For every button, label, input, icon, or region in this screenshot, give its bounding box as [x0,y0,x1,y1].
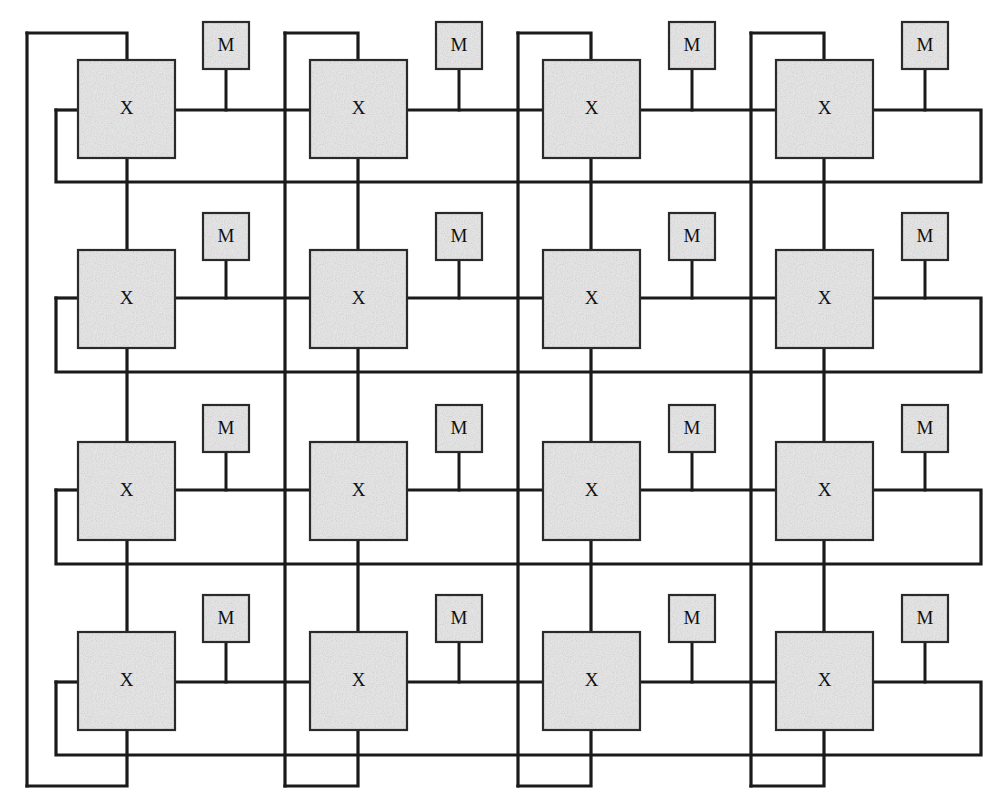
memory-node-label: M [218,417,235,438]
memory-node-label: M [917,417,934,438]
col1-top-entry [27,33,127,60]
memory-node-3-2[interactable]: M [436,405,482,452]
switch-node-2-3[interactable]: X [543,250,640,348]
switch-node-label: X [818,287,832,308]
memory-node-label: M [684,417,701,438]
memory-node-label: M [451,225,468,246]
switch-node-label: X [120,287,134,308]
memory-node-2-3[interactable]: M [669,213,715,260]
memory-node-label: M [684,225,701,246]
memory-node-label: M [917,225,934,246]
switch-node-label: X [585,479,599,500]
memory-node-3-1[interactable]: M [203,405,249,452]
col2-bottom-wrap [285,730,358,786]
switch-node-label: X [818,479,832,500]
switch-node-4-3[interactable]: X [543,632,640,730]
memory-node-label: M [451,417,468,438]
memory-node-label: M [218,607,235,628]
col3-top-entry [518,33,591,60]
switch-node-label: X [352,287,366,308]
memory-node-2-1[interactable]: M [203,213,249,260]
memory-node-1-3[interactable]: M [669,22,715,69]
memory-node-label: M [218,34,235,55]
col4-bottom-wrap [751,730,824,786]
switch-node-label: X [585,669,599,690]
memory-node-label: M [917,34,934,55]
memory-node-label: M [917,607,934,628]
torus-interconnect-diagram: XXXXXXXXXXXXXXXX MMMMMMMMMMMMMMMM [0,0,999,812]
switch-node-label: X [352,479,366,500]
col4-top-entry [751,33,824,60]
memory-node-4-2[interactable]: M [436,595,482,642]
switch-node-2-2[interactable]: X [310,250,407,348]
switch-node-label: X [818,97,832,118]
memory-node-3-3[interactable]: M [669,405,715,452]
switch-node-label: X [585,97,599,118]
diagram-canvas: XXXXXXXXXXXXXXXX MMMMMMMMMMMMMMMM [0,0,999,812]
switch-node-1-3[interactable]: X [543,60,640,158]
switch-node-label: X [818,669,832,690]
memory-node-2-2[interactable]: M [436,213,482,260]
switch-node-3-3[interactable]: X [543,442,640,540]
memory-node-label: M [684,34,701,55]
switch-node-1-2[interactable]: X [310,60,407,158]
memory-node-4-4[interactable]: M [902,595,948,642]
switch-node-3-1[interactable]: X [78,442,175,540]
switch-node-4-1[interactable]: X [78,632,175,730]
switch-node-3-2[interactable]: X [310,442,407,540]
switch-node-1-4[interactable]: X [776,60,873,158]
switch-node-label: X [120,669,134,690]
memory-node-1-2[interactable]: M [436,22,482,69]
memory-node-label: M [451,34,468,55]
col1-bottom-wrap [27,730,127,786]
col3-bottom-wrap [518,730,591,786]
switch-node-label: X [352,669,366,690]
switch-node-2-1[interactable]: X [78,250,175,348]
memory-node-1-1[interactable]: M [203,22,249,69]
memory-node-label: M [684,607,701,628]
switch-node-3-4[interactable]: X [776,442,873,540]
switch-node-4-2[interactable]: X [310,632,407,730]
memory-node-label: M [451,607,468,628]
switch-node-label: X [585,287,599,308]
memory-node-label: M [218,225,235,246]
memory-node-4-3[interactable]: M [669,595,715,642]
col2-top-entry [285,33,358,60]
switch-node-4-4[interactable]: X [776,632,873,730]
switch-node-label: X [120,479,134,500]
switch-node-1-1[interactable]: X [78,60,175,158]
switch-node-label: X [120,97,134,118]
memory-node-4-1[interactable]: M [203,595,249,642]
switch-node-label: X [352,97,366,118]
memory-node-1-4[interactable]: M [902,22,948,69]
memory-node-3-4[interactable]: M [902,405,948,452]
memory-node-2-4[interactable]: M [902,213,948,260]
switch-node-2-4[interactable]: X [776,250,873,348]
